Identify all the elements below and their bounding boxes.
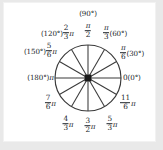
fraction-pi-2: π 2	[85, 23, 91, 39]
label-11pi-over-6: 11 6 π	[120, 95, 136, 111]
label-5pi-over-3: 5 3 π	[106, 116, 117, 132]
label-pi-over-6: π 6 (30°)	[120, 45, 144, 61]
center-dot-icon	[85, 75, 92, 82]
label-7pi-over-6: 7 6 π	[45, 95, 56, 111]
label-pi-over-3: π 3 (60°)	[103, 25, 127, 41]
fraction-11-6: 11 6	[120, 95, 130, 111]
label-pi-over-2: π 2	[85, 23, 91, 39]
unit-circle-figure: (90°) π 2 (120°) 2 3 π π 3 (60°)	[0, 0, 163, 150]
label-3pi-over-2: 3 2 π	[84, 118, 95, 134]
label-5pi-over-6: (150°) 5 6 π	[24, 43, 57, 59]
label-zero-0: 0(0°)	[123, 74, 141, 81]
label-2pi-over-3: (120°) 2 3 π	[41, 25, 74, 41]
label-90-degrees: (90°)	[79, 10, 97, 17]
figure-page: (90°) π 2 (120°) 2 3 π π 3 (60°)	[0, 0, 163, 150]
label-pi-180: (180°)π	[27, 74, 54, 81]
label-4pi-over-3: 4 3 π	[62, 116, 73, 132]
